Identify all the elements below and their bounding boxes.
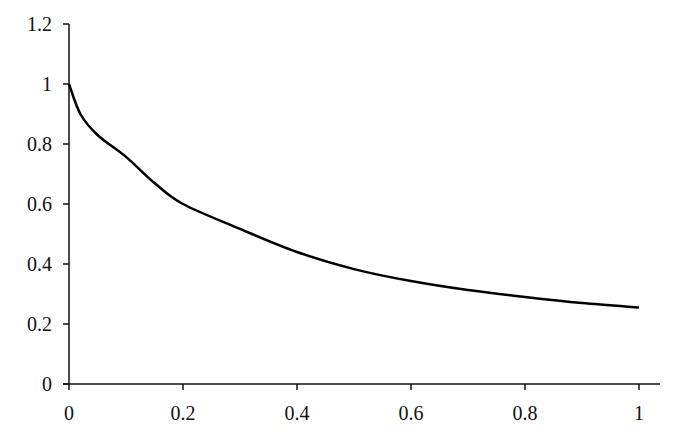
y-tick-label: 0.4 [27, 253, 52, 275]
x-tick-label: 0.6 [399, 402, 424, 424]
y-tick-label: 0.8 [27, 133, 52, 155]
x-tick-label: 1 [634, 402, 644, 424]
y-tick-label: 0.2 [27, 313, 52, 335]
y-tick-label: 0 [42, 373, 52, 395]
y-tick-label: 1.2 [27, 13, 52, 35]
series-line [69, 84, 639, 308]
y-tick-label: 1 [42, 73, 52, 95]
x-tick-label: 0 [64, 402, 74, 424]
x-tick-label: 0.2 [171, 402, 196, 424]
data-series [69, 84, 639, 308]
line-chart: 00.20.40.60.811.2 00.20.40.60.81 [0, 0, 680, 442]
x-tick-label: 0.8 [513, 402, 538, 424]
y-axis: 00.20.40.60.811.2 [27, 13, 69, 395]
x-tick-label: 0.4 [285, 402, 310, 424]
x-axis: 00.20.40.60.81 [63, 384, 660, 424]
y-tick-label: 0.6 [27, 193, 52, 215]
